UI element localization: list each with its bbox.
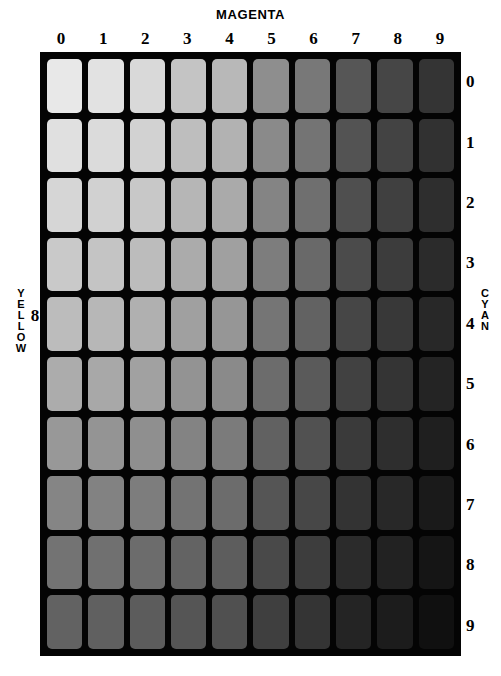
swatch-c7-r3	[336, 238, 371, 292]
swatch-c6-r0	[295, 59, 330, 113]
swatch-c6-r5	[295, 357, 330, 411]
swatch-c4-r5	[212, 357, 247, 411]
yellow-title-letter: W	[14, 343, 28, 354]
cyan-tick-4: 4	[466, 294, 494, 354]
swatch-c8-r9	[377, 595, 412, 649]
swatch-c4-r3	[212, 238, 247, 292]
swatch-c5-r8	[253, 536, 288, 590]
swatch-cell	[416, 473, 457, 533]
swatch-c7-r9	[336, 595, 371, 649]
swatch-cell	[416, 354, 457, 414]
cyan-tick-8: 8	[466, 535, 494, 595]
swatch-cell	[250, 592, 291, 652]
swatch-c1-r3	[88, 238, 123, 292]
swatch-c2-r3	[130, 238, 165, 292]
magenta-axis-title: MAGENTA	[0, 8, 501, 22]
swatch-cell	[250, 175, 291, 235]
cmy-test-chart: MAGENTA 0123456789 YELLOW 8 CYAN 0123456…	[0, 0, 501, 676]
swatch-cell	[250, 414, 291, 474]
swatch-cell	[333, 294, 374, 354]
swatch-cell	[85, 235, 126, 295]
swatch-cell	[292, 354, 333, 414]
swatch-cell	[333, 235, 374, 295]
swatch-cell	[44, 116, 85, 176]
cyan-tick-9: 9	[466, 596, 494, 656]
swatch-c0-r2	[47, 178, 82, 232]
swatch-c9-r0	[419, 59, 454, 113]
swatch-cell	[209, 294, 250, 354]
swatch-cell	[292, 116, 333, 176]
yellow-axis-title: YELLOW	[14, 288, 28, 354]
swatch-c9-r2	[419, 178, 454, 232]
swatch-cell	[85, 592, 126, 652]
swatch-cell	[250, 294, 291, 354]
magenta-tick-9: 9	[419, 28, 461, 50]
swatch-cell	[333, 473, 374, 533]
swatch-cell	[127, 473, 168, 533]
swatch-c1-r5	[88, 357, 123, 411]
swatch-cell	[333, 354, 374, 414]
swatch-c3-r9	[171, 595, 206, 649]
swatch-c5-r2	[253, 178, 288, 232]
swatch-c8-r5	[377, 357, 412, 411]
swatch-c5-r9	[253, 595, 288, 649]
swatch-c7-r2	[336, 178, 371, 232]
swatch-cell	[374, 116, 415, 176]
swatch-c2-r0	[130, 59, 165, 113]
swatch-c0-r3	[47, 238, 82, 292]
magenta-tick-5: 5	[250, 28, 292, 50]
swatch-c7-r0	[336, 59, 371, 113]
swatch-cell	[44, 473, 85, 533]
swatch-cell	[127, 235, 168, 295]
swatch-cell	[374, 235, 415, 295]
swatch-c1-r9	[88, 595, 123, 649]
swatch-c3-r1	[171, 119, 206, 173]
swatch-c6-r6	[295, 417, 330, 471]
swatch-c3-r0	[171, 59, 206, 113]
swatch-cell	[374, 56, 415, 116]
swatch-c8-r2	[377, 178, 412, 232]
swatch-c4-r9	[212, 595, 247, 649]
swatch-cell	[127, 533, 168, 593]
swatch-cell	[209, 354, 250, 414]
swatch-c1-r2	[88, 178, 123, 232]
swatch-cell	[374, 354, 415, 414]
swatch-c6-r8	[295, 536, 330, 590]
swatch-c6-r4	[295, 297, 330, 351]
swatch-c1-r0	[88, 59, 123, 113]
swatch-c2-r4	[130, 297, 165, 351]
magenta-tick-8: 8	[377, 28, 419, 50]
swatch-c5-r6	[253, 417, 288, 471]
swatch-c1-r8	[88, 536, 123, 590]
swatch-cell	[127, 116, 168, 176]
swatch-c2-r8	[130, 536, 165, 590]
swatch-cell	[374, 533, 415, 593]
swatch-c3-r7	[171, 476, 206, 530]
swatch-cell	[44, 235, 85, 295]
swatch-cell	[85, 473, 126, 533]
swatch-cell	[44, 56, 85, 116]
swatch-c3-r6	[171, 417, 206, 471]
swatch-cell	[168, 354, 209, 414]
swatch-cell	[374, 414, 415, 474]
swatch-c8-r4	[377, 297, 412, 351]
cyan-tick-3: 3	[466, 233, 494, 293]
swatch-cell	[127, 414, 168, 474]
swatch-c0-r6	[47, 417, 82, 471]
magenta-tick-0: 0	[40, 28, 82, 50]
swatch-cell	[127, 56, 168, 116]
swatch-cell	[85, 116, 126, 176]
swatch-cell	[209, 175, 250, 235]
swatch-cell	[85, 354, 126, 414]
swatch-c7-r4	[336, 297, 371, 351]
swatch-cell	[85, 56, 126, 116]
swatch-cell	[292, 533, 333, 593]
swatch-cell	[85, 533, 126, 593]
swatch-c5-r1	[253, 119, 288, 173]
swatch-cell	[168, 592, 209, 652]
magenta-tick-6: 6	[293, 28, 335, 50]
swatch-c0-r5	[47, 357, 82, 411]
swatch-c8-r7	[377, 476, 412, 530]
swatch-cell	[416, 235, 457, 295]
swatch-cell	[292, 473, 333, 533]
